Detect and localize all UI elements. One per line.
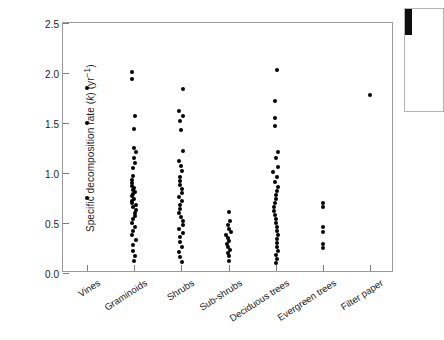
data-point [181, 114, 185, 118]
x-tick [370, 265, 371, 271]
y-tick: 0.0 [63, 273, 69, 274]
data-point [229, 230, 233, 234]
data-point [131, 249, 135, 253]
x-tick-label-shrubs: Shrubs [165, 277, 196, 303]
data-point [130, 70, 134, 74]
x-tick-label-vines: Vines [76, 277, 102, 299]
data-point [178, 240, 182, 244]
y-tick: 1.0 [63, 173, 69, 174]
data-point [321, 246, 325, 250]
y-axis-title: Specific decomposition rate (k) (yr−1) [82, 18, 96, 278]
data-point [178, 255, 182, 259]
data-point [368, 93, 372, 97]
data-point [276, 165, 280, 169]
data-point [180, 245, 184, 249]
x-tick [87, 265, 88, 271]
data-point [276, 150, 280, 154]
data-point [274, 261, 278, 265]
y-tick-label: 0.5 [45, 218, 59, 229]
x-tick [229, 265, 230, 271]
y-tick-label: 0.0 [45, 268, 59, 279]
data-point [134, 238, 138, 242]
data-point [227, 259, 231, 263]
data-point [274, 156, 278, 160]
data-point [181, 149, 185, 153]
data-point [130, 77, 134, 81]
data-point [321, 225, 325, 229]
plot-area: Specific decomposition rate (k) (yr−1) 0… [62, 22, 393, 272]
y-tick: 2.5 [63, 23, 69, 24]
x-tick [134, 265, 135, 271]
data-point [177, 159, 181, 163]
data-point [177, 109, 181, 113]
data-point [179, 164, 183, 168]
data-point [180, 260, 184, 264]
data-point [321, 205, 325, 209]
x-tick [276, 265, 277, 271]
data-point [180, 191, 184, 195]
data-point [177, 227, 181, 231]
adjacent-panel-swatch [405, 9, 412, 35]
data-point [179, 128, 183, 132]
data-point [131, 243, 135, 247]
data-point [132, 156, 136, 160]
x-tick [323, 265, 324, 271]
data-point [131, 166, 135, 170]
data-point [273, 124, 277, 128]
data-point [181, 87, 185, 91]
data-point [273, 99, 277, 103]
data-point [273, 116, 277, 120]
x-tick-label-filter-paper: Filter paper [339, 277, 385, 312]
data-point [85, 121, 89, 125]
data-point [132, 127, 136, 131]
data-point [134, 150, 138, 154]
y-tick-label: 2.0 [45, 68, 59, 79]
data-point [85, 86, 89, 90]
data-point [321, 230, 325, 234]
data-point [181, 223, 185, 227]
y-tick-label: 1.0 [45, 168, 59, 179]
data-point [275, 175, 279, 179]
y-tick-label: 2.5 [45, 18, 59, 29]
data-point [227, 254, 231, 258]
data-point [178, 119, 182, 123]
y-axis-title-tail: ) [85, 64, 96, 67]
data-point [132, 259, 136, 263]
y-axis-title-exponent: −1 [82, 68, 92, 78]
data-point [177, 250, 181, 254]
y-tick: 2.0 [63, 73, 69, 74]
data-point [273, 180, 277, 184]
data-point [133, 254, 137, 258]
data-point [271, 170, 275, 174]
data-point [133, 161, 137, 165]
data-point [227, 210, 231, 214]
data-point [133, 114, 137, 118]
y-tick-label: 1.5 [45, 118, 59, 129]
y-tick: 1.5 [63, 123, 69, 124]
data-point [85, 196, 89, 200]
x-tick-label-graminoids: Graminoids [102, 277, 149, 313]
data-point [178, 235, 182, 239]
y-tick: 0.5 [63, 223, 69, 224]
data-point [180, 169, 184, 173]
data-point [181, 231, 185, 235]
data-point [275, 68, 279, 72]
x-tick [181, 265, 182, 271]
y-axis-title-symbol: k [85, 96, 96, 101]
data-point [130, 233, 134, 237]
